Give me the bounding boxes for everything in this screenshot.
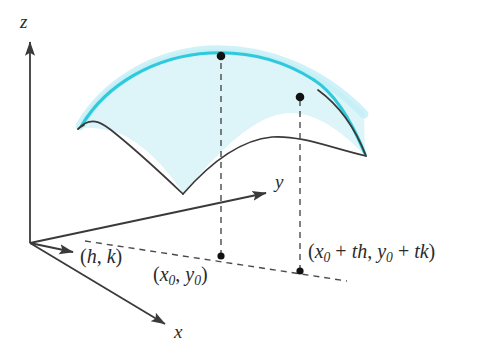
hk-open-paren: ( [80,245,87,267]
hk-vector-label: (h, k) [80,246,122,266]
p0-open-paren: ( [153,263,160,285]
hk-close-paren: ) [116,245,123,267]
z-axis-label: z [20,12,27,31]
p1-comma: , [367,240,377,262]
surface-point-0 [217,52,226,61]
hk-k: k [107,245,116,267]
p1-close-paren: ) [429,240,436,262]
diagram-canvas [0,0,477,354]
hk-h: h [87,245,97,267]
math-figure: z y x (h, k) (x0, y0) (x0 + th, y0 + tk) [0,0,477,354]
p0-comma: , [175,263,185,285]
p1-plus-2: + [393,240,414,262]
p1-y: y [377,240,386,262]
base-point-0-label: (x0, y0) [153,264,208,287]
p0-x: x [160,263,169,285]
hk-comma: , [97,245,107,267]
base-point-1-label: (x0 + th, y0 + tk) [308,241,435,264]
y-axis-label: y [275,172,283,191]
p1-th: th [352,240,368,262]
x-axis-label: x [174,322,182,341]
p1-x: x [315,240,324,262]
p0-close-paren: ) [201,263,208,285]
surface-patch [78,49,366,194]
p1-open-paren: ( [308,240,315,262]
y-axis [30,193,266,243]
surface-point-1 [296,93,305,102]
p1-tk: tk [414,240,428,262]
p1-plus-1: + [330,240,351,262]
base-point-1-dot [296,267,303,274]
base-point-0-dot [217,252,224,259]
p0-y: y [185,263,194,285]
p1-y-sub: 0 [386,250,393,265]
